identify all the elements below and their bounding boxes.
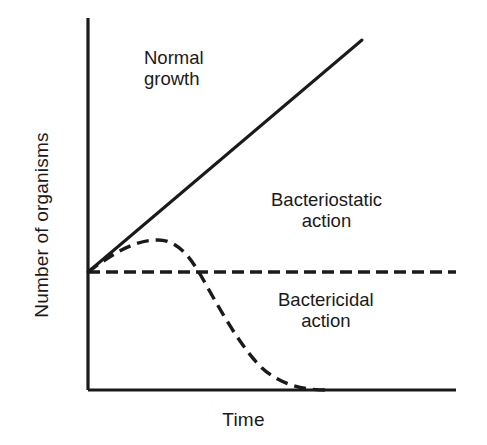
series-line-normal-growth [88, 40, 362, 272]
annotation-normal-growth-line1: Normal [144, 47, 204, 68]
annotation-bacteriostatic: Bacteriostatic action [271, 190, 382, 231]
y-axis-title: Number of organisms [31, 105, 53, 345]
x-axis-title: Time [0, 409, 487, 431]
annotation-normal-growth-line2: growth [144, 69, 204, 90]
annotation-bactericidal-line2: action [278, 311, 374, 332]
chart-plot-area [0, 0, 487, 445]
annotation-bacteriostatic-line1: Bacteriostatic [271, 189, 382, 210]
annotation-bactericidal-line1: Bactericidal [278, 289, 374, 310]
annotation-bacteriostatic-line2: action [271, 211, 382, 232]
annotation-normal-growth: Normal growth [144, 48, 204, 89]
annotation-bactericidal: Bactericidal action [278, 290, 374, 331]
chart-figure: Number of organisms Time Normal growth B… [0, 0, 487, 445]
